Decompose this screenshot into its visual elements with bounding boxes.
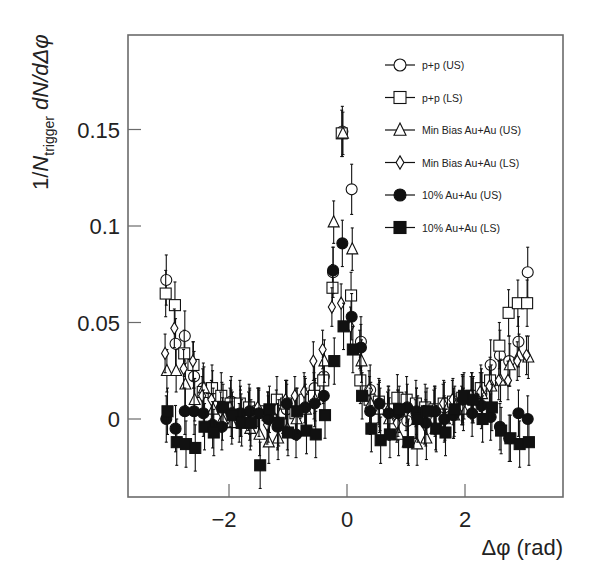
x-tick-label: −2 [211, 507, 236, 532]
legend-label: Min Bias Au+Au (LS) [422, 157, 519, 169]
data-point [449, 404, 460, 415]
data-point [198, 408, 209, 419]
x-axis-title: Δφ (rad) [481, 535, 563, 560]
data-point [522, 298, 533, 309]
legend-label: 10% Au+Au (US) [422, 189, 502, 201]
data-point [309, 398, 320, 409]
data-point [403, 437, 414, 448]
y-axis-title-n: N [28, 156, 53, 172]
data-point [179, 331, 190, 342]
y-axis-title-subscript: trigger [41, 116, 57, 156]
data-point [292, 406, 303, 417]
data-point [208, 427, 219, 438]
y-axis-title-suffix: dN/dΔφ [28, 34, 53, 116]
data-point [522, 267, 533, 278]
data-point [245, 417, 256, 428]
data-point [355, 375, 366, 386]
data-point [468, 394, 479, 405]
data-point [161, 275, 172, 286]
data-point [477, 414, 488, 425]
legend-item: 10% Au+Au (US) [385, 189, 502, 201]
data-point [384, 429, 395, 440]
data-point [337, 238, 348, 249]
x-tick-label: 0 [341, 507, 353, 532]
legend-item: 10% Au+Au (LS) [385, 222, 500, 234]
data-point [264, 404, 275, 415]
data-point [467, 408, 478, 419]
data-point [394, 404, 405, 415]
chart: 0.15 0.1 0.05 0 −2 0 2 Δφ (rad) 1/Ntrigg… [0, 0, 589, 583]
data-point [318, 375, 329, 386]
data-point [486, 402, 497, 413]
data-point [440, 427, 451, 438]
data-point [328, 265, 339, 276]
y-axis-title-prefix: 1/ [28, 171, 53, 190]
data-point [523, 437, 534, 448]
chart-background [0, 0, 589, 583]
legend-label: Min Bias Au+Au (US) [422, 124, 521, 136]
data-point [282, 427, 293, 438]
filled-square-marker-icon [394, 222, 406, 234]
data-point [329, 356, 340, 367]
y-tick-label: 0.1 [89, 214, 120, 239]
open-circle-marker-icon [394, 59, 406, 71]
data-point [421, 406, 432, 417]
data-point [366, 423, 377, 434]
data-point [162, 406, 173, 417]
y-axis-title: 1/Ntrigger dN/dΔφ [28, 34, 57, 190]
filled-circle-marker-icon [394, 189, 406, 201]
data-point [170, 423, 181, 434]
data-point [365, 406, 376, 417]
y-tick-label: 0 [108, 407, 120, 432]
y-tick-label: 0.05 [77, 311, 120, 336]
x-tick-label: 2 [459, 507, 471, 532]
y-tick-label: 0.15 [77, 118, 120, 143]
data-point [255, 460, 266, 471]
data-point [281, 398, 292, 409]
data-point [310, 429, 321, 440]
data-point [347, 344, 358, 355]
data-point [346, 184, 357, 195]
legend-item: p+p (US) [385, 59, 464, 71]
data-point [160, 288, 171, 299]
open-square-marker-icon [394, 92, 406, 104]
data-point [374, 398, 385, 409]
data-point [320, 410, 331, 421]
data-point [338, 321, 349, 332]
legend-label: p+p (US) [422, 59, 464, 71]
data-point [357, 390, 368, 401]
legend-label: 10% Au+Au (LS) [422, 222, 500, 234]
legend-item: p+p (LS) [385, 92, 463, 104]
data-point [346, 290, 357, 301]
legend-label: p+p (LS) [422, 92, 463, 104]
data-point [494, 340, 505, 351]
data-point [190, 442, 201, 453]
